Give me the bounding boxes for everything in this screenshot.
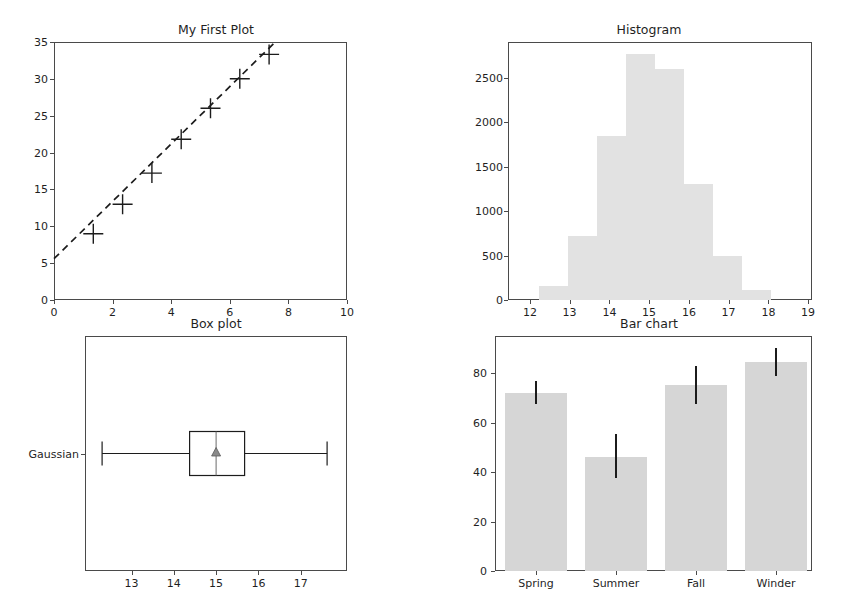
ytick-label: 1500 — [437, 160, 503, 173]
xtick-label: Fall — [687, 577, 705, 590]
error-bar-fall — [695, 366, 697, 404]
ytick-label: 0 — [437, 294, 503, 307]
ytick-label: 20 — [435, 515, 487, 528]
ytick-label: 1000 — [437, 205, 503, 218]
ytick-label: 2500 — [437, 71, 503, 84]
panel-box-plot: Box plot Gaussian 13 14 15 16 17 — [0, 312, 432, 615]
matplotlib-figure: My First Plot 35 30 25 20 15 10 5 0 0 2 — [0, 0, 865, 615]
data-point-markers — [83, 44, 279, 243]
ytick-label: 60 — [435, 416, 487, 429]
hist-bin — [597, 136, 626, 300]
hist-bin — [539, 286, 568, 300]
ytick-label: 80 — [435, 367, 487, 380]
ytick-label: 0 — [435, 565, 487, 578]
bar-fall — [665, 385, 727, 571]
bar-chart-title: Bar chart — [433, 316, 865, 331]
error-bar-winder — [775, 348, 777, 376]
hist-bin — [684, 184, 713, 301]
panel-bar-chart: Bar chart 80 60 40 20 0 — [433, 312, 865, 615]
xtick-label: Winder — [757, 577, 796, 590]
hist-bin — [626, 54, 655, 300]
ytick-label: 40 — [435, 466, 487, 479]
line-plot-data — [0, 18, 432, 318]
xtick-label: Summer — [593, 577, 640, 590]
bar-winder — [745, 362, 807, 571]
xtick-label: Spring — [518, 577, 554, 590]
box-plot-glyphs — [0, 312, 432, 615]
bar-spring — [505, 393, 567, 571]
panel-line-plot: My First Plot 35 30 25 20 15 10 5 0 0 2 — [0, 18, 432, 318]
error-bar-spring — [535, 381, 537, 405]
panel-histogram: Histogram 2500 2000 1500 1000 500 0 12 1… — [433, 18, 865, 318]
ytick-label: 2000 — [437, 116, 503, 129]
ytick-label: 500 — [437, 249, 503, 262]
mean-marker-triangle — [212, 448, 221, 457]
trend-line — [54, 42, 275, 259]
error-bar-summer — [615, 434, 617, 477]
hist-bin — [742, 290, 771, 300]
hist-bin — [655, 69, 684, 300]
histogram-title: Histogram — [433, 22, 865, 37]
hist-bin — [713, 256, 742, 300]
hist-bin — [568, 236, 597, 300]
